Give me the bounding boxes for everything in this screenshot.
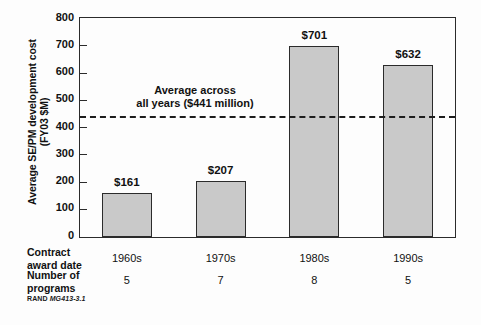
y-tick-label-0: 0 <box>38 230 74 241</box>
category-label-1970s: 1970s <box>181 252 261 264</box>
y-tick-300 <box>80 154 87 155</box>
bar-1990s[interactable] <box>383 65 433 237</box>
average-annotation-line2: all years ($441 million) <box>100 97 290 111</box>
y-tick-label-300: 300 <box>38 148 74 159</box>
y-tick-label-400: 400 <box>38 121 74 132</box>
average-annotation: Average acrossall years ($441 million) <box>100 84 290 111</box>
average-annotation-line1: Average across <box>154 84 236 96</box>
y-tick-label-500: 500 <box>38 93 74 104</box>
chart-figure: Average SE/PM development cost (FY03 $M)… <box>0 0 481 325</box>
y-tick-600 <box>80 73 87 74</box>
y-tick-label-600: 600 <box>38 66 74 77</box>
row-label-contract-line1: Contract <box>27 246 70 258</box>
bar-1970s[interactable] <box>196 181 246 237</box>
y-tick-100 <box>80 209 87 210</box>
row-label-programs-line1: Number of <box>27 269 80 281</box>
y-tick-label-700: 700 <box>38 39 74 50</box>
category-label-1980s: 1980s <box>274 252 354 264</box>
programs-count-1960s: 5 <box>87 274 167 286</box>
y-tick-700 <box>80 45 87 46</box>
plot-area: $161$207$701$632Average acrossall years … <box>79 17 456 238</box>
y-tick-400 <box>80 127 87 128</box>
bar-value-label-1960s: $161 <box>87 176 167 188</box>
source-note: RAND MG413-3.1 <box>27 295 86 302</box>
average-reference-line <box>80 116 455 118</box>
y-tick-label-100: 100 <box>38 202 74 213</box>
bar-value-label-1990s: $632 <box>368 48 448 60</box>
y-tick-500 <box>80 100 87 101</box>
bar-1960s[interactable] <box>102 193 152 237</box>
programs-count-1970s: 7 <box>181 274 261 286</box>
programs-count-1990s: 5 <box>368 274 448 286</box>
y-tick-label-800: 800 <box>38 12 74 23</box>
bar-1980s[interactable] <box>289 46 339 237</box>
bar-value-label-1980s: $701 <box>274 29 354 41</box>
programs-count-1980s: 8 <box>274 274 354 286</box>
category-label-1990s: 1990s <box>368 252 448 264</box>
category-label-1960s: 1960s <box>87 252 167 264</box>
y-tick-label-200: 200 <box>38 175 74 186</box>
source-org: RAND <box>27 295 48 302</box>
y-tick-label-layer: 0100200300400500600700800 <box>36 17 74 238</box>
source-figure-id: MG413-3.1 <box>50 295 86 302</box>
plot-inner: $161$207$701$632Average acrossall years … <box>80 18 455 237</box>
bar-value-label-1970s: $207 <box>181 164 261 176</box>
